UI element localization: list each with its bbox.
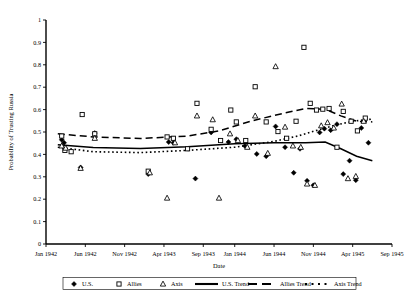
x-tick-label: Sep 1945 [380,250,403,257]
data-point-allies [264,120,268,124]
probability-of-trusting-russia-chart: 00.10.20.30.40.50.60.70.80.91 Jan 1942Ju… [0,0,419,296]
y-tick-label: 1 [38,16,41,23]
data-point-allies [276,129,280,133]
y-tick-label: 0.7 [33,83,41,90]
data-point-allies [341,109,345,113]
x-tick-label: Nov 1944 [301,250,326,257]
data-point-allies [285,136,289,140]
y-tick-label: 0.3 [33,173,41,180]
legend-label-axis: Axis [171,280,183,287]
legend-marker-allies [117,282,121,286]
y-tick-label: 0.4 [33,151,41,158]
data-point-allies [349,119,353,123]
y-tick-label: 0.1 [33,218,41,225]
x-tick-label: Sep 1943 [192,250,215,257]
data-point-allies [234,120,238,124]
legend-label-u-s-trend: U.S. Trend [222,280,250,287]
y-tick-label: 0.2 [33,195,41,202]
data-point-allies [218,138,222,142]
y-tick-label: 0.5 [33,128,41,135]
y-tick-label: 0.9 [33,39,41,46]
data-point-allies [69,150,73,154]
data-point-allies [244,138,248,142]
data-point-allies [60,134,64,138]
plot-background [46,20,392,244]
x-axis-ticks: Jan 1942Jun 1942Nov 1942Apr 1943Sep 1943… [35,244,404,257]
y-axis-title: Probability of Trusting Russia [7,93,14,170]
data-point-allies [195,101,199,105]
y-axis-ticks: 00.10.20.30.40.50.60.70.80.91 [33,16,46,247]
legend-label-u-s: U.S. [82,280,93,287]
data-point-allies [321,107,325,111]
x-tick-label: Jun 1942 [74,250,97,257]
x-tick-label: Jun 1944 [263,250,286,257]
data-point-allies [185,147,189,151]
y-tick-label: 0.8 [33,61,41,68]
y-tick-label: 0 [38,240,41,247]
x-tick-label: Jan 1944 [224,250,246,257]
legend-label-allies: Allies [127,280,142,287]
x-tick-label: Apr 1945 [341,250,365,257]
x-tick-label: Apr 1943 [152,250,176,257]
y-tick-label: 0.6 [33,106,41,113]
data-point-allies [165,135,169,139]
data-point-allies [335,145,339,149]
data-point-allies [327,106,331,110]
x-axis-title: Date [213,262,225,269]
data-point-allies [209,127,213,131]
legend-label-axis-trend: Axis Trend [334,280,363,287]
x-tick-label: Nov 1942 [112,250,137,257]
data-point-allies [294,119,298,123]
data-point-allies [355,129,359,133]
chart-legend: U.S.AlliesAxisU.S. TrendAllies TrendAxis… [63,278,363,290]
data-point-allies [229,108,233,112]
data-point-allies [253,85,257,89]
chart-container: 00.10.20.30.40.50.60.70.80.91 Jan 1942Ju… [0,0,419,296]
data-point-allies [314,108,318,112]
data-point-allies [308,101,312,105]
data-point-allies [302,45,306,49]
x-tick-label: Jan 1942 [35,250,57,257]
data-point-allies [80,112,84,116]
